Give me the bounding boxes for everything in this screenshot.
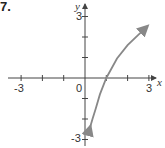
x-tick-label-neg3: -3	[14, 82, 24, 94]
axes	[8, 4, 156, 146]
x-tick-label-0: 0	[76, 82, 82, 94]
y-tick-label-neg3: -3	[71, 132, 81, 144]
function-curve	[90, 27, 147, 127]
x-tick-label-3: 3	[146, 82, 152, 94]
tick-labels: -3 0 3 3 -3 x y	[14, 0, 162, 144]
function-graph: -3 0 3 3 -3 x y	[0, 0, 165, 148]
x-axis-label: x	[156, 76, 162, 88]
y-axis-label: y	[74, 0, 80, 12]
